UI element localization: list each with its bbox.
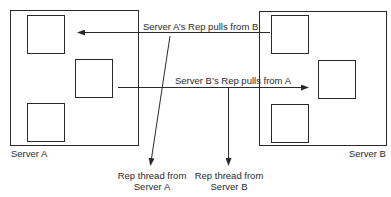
server-b-label: Server B [349, 148, 386, 159]
server-a-node-2 [76, 60, 113, 98]
thread-b-caption-line2: Server B [189, 181, 269, 192]
server-b-node-1 [272, 16, 309, 54]
server-a-label: Server A [11, 148, 47, 159]
thread-a-caption-line1: Rep thread from [112, 170, 192, 181]
thread-a-caption-line2: Server A [112, 181, 192, 192]
thread-a-pointer [151, 36, 171, 165]
arrow-b-pulls-from-a-label: Server B’s Rep pulls from A [175, 75, 291, 86]
server-b-node-3 [272, 105, 309, 143]
server-b-node-2 [319, 61, 356, 99]
server-a-node-3 [28, 104, 65, 142]
thread-b-caption: Rep thread from Server B [189, 170, 269, 192]
server-a-box [11, 11, 139, 146]
server-a-node-1 [28, 16, 65, 54]
arrow-a-pulls-from-b-label: Server A’s Rep pulls from B [143, 21, 258, 32]
thread-a-caption: Rep thread from Server A [112, 170, 192, 192]
thread-b-caption-line1: Rep thread from [189, 170, 269, 181]
